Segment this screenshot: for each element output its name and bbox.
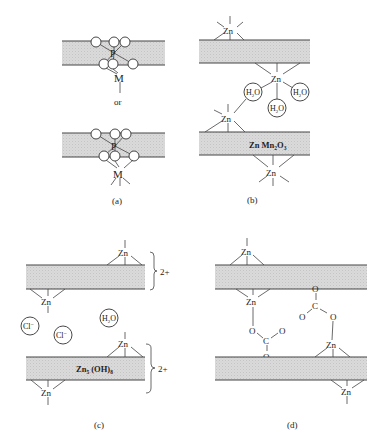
brace-icon — [150, 252, 157, 290]
layered-structure-figure: P M or P — [0, 0, 382, 443]
water-molecule: H2O — [244, 83, 262, 101]
panel-a-or-text: or — [114, 97, 122, 107]
zn-label: Zn — [266, 168, 276, 178]
zn-label: Zn — [246, 297, 256, 307]
water-molecule: H2O — [100, 309, 118, 327]
panel-d-zn-on-layer-2: Zn — [315, 340, 350, 357]
zn-label: Zn — [223, 26, 233, 36]
panel-d: Zn Zn O C O O O C — [215, 238, 367, 430]
zn-label: Zn — [41, 388, 51, 398]
zn-label: Zn — [271, 74, 281, 84]
water-molecule: H2O — [268, 99, 286, 117]
panel-a-p-atom-1: P — [110, 48, 116, 59]
oxygen-atom-icon — [129, 151, 139, 161]
panel-d-zn-top: Zn — [230, 238, 264, 265]
zn-label: Zn — [326, 340, 336, 350]
panel-b-caption: (b) — [247, 195, 258, 205]
oxygen-atom-icon — [99, 59, 109, 69]
panel-c-zn-bottom-1: Zn — [30, 289, 65, 313]
zn-label: Zn — [221, 114, 231, 124]
panel-c-zn-top-1: Zn — [107, 240, 142, 265]
panel-b-zn-top: Zn — [214, 16, 244, 40]
zn-label: Zn — [118, 248, 128, 258]
svg-text:O: O — [312, 284, 319, 294]
svg-text:O: O — [249, 326, 256, 336]
oxygen-atom-icon — [110, 151, 120, 161]
panel-c-charge-1: 2+ — [160, 267, 170, 277]
chloride-ion: Cl− — [54, 326, 72, 344]
oxygen-atom-icon — [99, 151, 109, 161]
svg-text:O: O — [279, 326, 286, 336]
zn-label: Zn — [41, 297, 51, 307]
brace-icon — [146, 344, 155, 393]
oxygen-atom-icon — [91, 37, 101, 47]
svg-text:O: O — [330, 312, 337, 322]
panel-b-zn-hydrated: Zn H2O H2O H2O — [234, 63, 309, 117]
zn-label: Zn — [341, 387, 351, 397]
carbonate-group-2: O C O O — [299, 284, 337, 340]
panel-c-zn-bottom-2: Zn — [31, 380, 65, 405]
panel-d-zn-bottom: Zn — [331, 380, 364, 404]
chloride-ion: Cl− — [21, 317, 39, 335]
oxygen-atom-icon — [109, 37, 119, 47]
panel-a-layer-2: P M — [62, 129, 165, 186]
panel-d-zn-under-layer-1: Zn — [236, 289, 270, 326]
svg-text:O: O — [299, 312, 306, 322]
oxygen-atom-icon — [120, 37, 130, 47]
panel-d-caption: (d) — [287, 420, 298, 430]
panel-a-caption: (a) — [112, 196, 122, 206]
panel-c-charge-2: 2+ — [158, 364, 168, 374]
panel-c-caption: (c) — [94, 420, 104, 430]
oxygen-atom-icon — [128, 59, 138, 69]
panel-a-p-atom-2: P — [111, 141, 117, 152]
zn-label: Zn — [118, 339, 128, 349]
panel-c-layer-label: Zn5 (OH)8 — [76, 364, 113, 375]
svg-text:C: C — [312, 301, 318, 311]
oxygen-atom-icon — [91, 129, 101, 139]
svg-text:C: C — [263, 336, 269, 346]
panel-b-layer-label: Zn Mn2O3 — [249, 140, 287, 151]
panel-c-zn-top-2: Zn — [107, 332, 143, 357]
panel-a-layer-1: P M — [62, 37, 165, 93]
panel-b: Zn Zn H2O H2O H2O — [199, 16, 310, 205]
panel-a-metal-label-1: M — [114, 72, 124, 84]
oxygen-atom-icon — [110, 129, 120, 139]
panel-a: P M or P — [62, 37, 165, 206]
panel-b-zn-lower: Zn — [205, 104, 245, 132]
panel-a-metal-label-2: M — [113, 168, 123, 180]
zn-label: Zn — [241, 247, 251, 257]
oxygen-atom-icon — [121, 129, 131, 139]
panel-c: Zn Zn 2+ Cl− Cl− H2O — [21, 240, 170, 430]
water-molecule: H2O — [291, 83, 309, 101]
oxygen-atom-icon — [108, 59, 118, 69]
panel-b-zn-bottom: Zn — [253, 155, 294, 186]
